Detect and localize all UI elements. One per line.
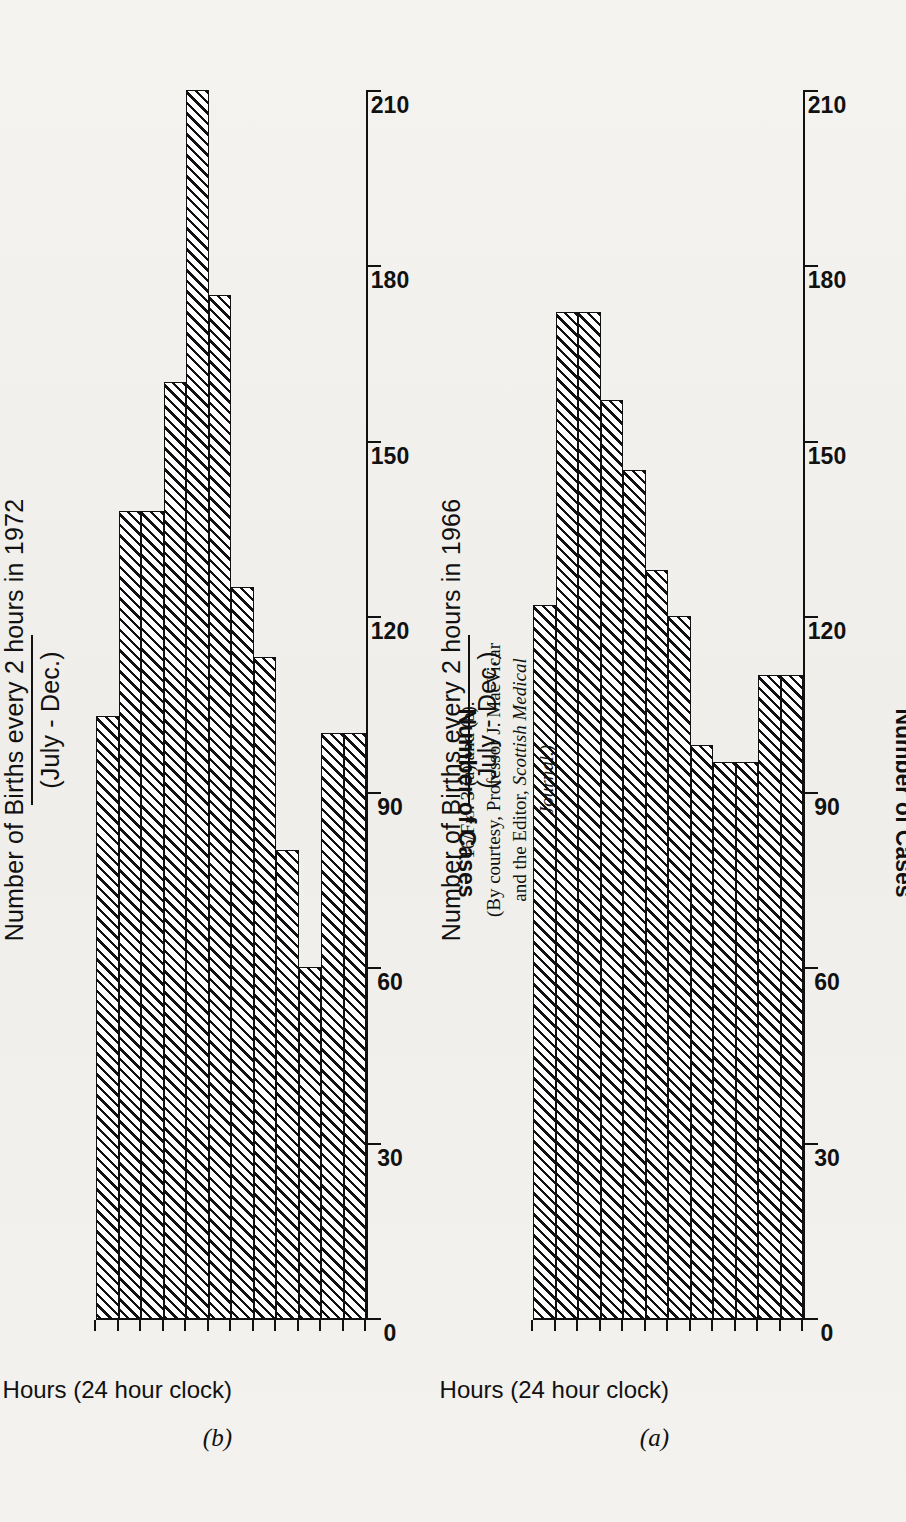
- hour-tick: [711, 1320, 713, 1331]
- value-tick-label: 210: [371, 92, 409, 119]
- figure-b-subtitle: (July - Dec.): [31, 635, 65, 804]
- bar-8-10: [254, 657, 277, 1318]
- caption-journal-name-2: Journal.): [536, 745, 557, 815]
- bar-16-18: [164, 382, 187, 1318]
- bar-22-24: [96, 716, 119, 1318]
- figure-b-title: Number of Births every 2 hours in 1972: [0, 0, 29, 1440]
- bar-14-16: [186, 90, 209, 1318]
- bar-4-6: [299, 967, 322, 1318]
- bar-12-14: [209, 295, 232, 1318]
- value-tick-label: 120: [371, 618, 409, 645]
- hour-tick: [94, 1320, 96, 1331]
- bar-10-12: [668, 616, 691, 1318]
- hour-tick: [689, 1320, 691, 1331]
- figure-a-panel-label: (a): [640, 1424, 669, 1452]
- hour-tick: [531, 1320, 533, 1331]
- value-tick-label: 180: [371, 267, 409, 294]
- figure-a-value-axis-line: [533, 1318, 805, 1320]
- value-tick-label: 150: [808, 443, 846, 470]
- figure-b-category-axis-line: [366, 90, 368, 1320]
- figure-b-title-block: Number of Births every 2 hours in 1972 (…: [0, 0, 65, 1440]
- figure-b-container: Number of Births every 2 hours in 1972 (…: [0, 0, 470, 1522]
- value-tick-label: 150: [371, 443, 409, 470]
- hour-tick: [207, 1320, 209, 1331]
- hour-tick: [139, 1320, 141, 1331]
- hour-tick: [599, 1320, 601, 1331]
- figure-caption: 16/Fig. 3 (a) and (b). (By courtesy, Pro…: [455, 615, 560, 945]
- value-tick-label: 30: [814, 1145, 840, 1172]
- caption-figure-number: 16/: [457, 834, 478, 858]
- bar-0-2: [344, 733, 367, 1318]
- figure-a-plot-area: 0306090120150180210 02468101214161820222…: [533, 90, 805, 1320]
- caption-fig-smallcaps: Fig.: [457, 805, 478, 834]
- hour-tick: [274, 1320, 276, 1331]
- hour-tick: [801, 1320, 803, 1331]
- bar-2-4: [321, 733, 344, 1318]
- figure-b-bars: [96, 90, 366, 1318]
- figure-a-value-axis-title: Number of Cases: [890, 709, 906, 898]
- value-tick-label: 90: [377, 794, 403, 821]
- hour-tick: [364, 1320, 366, 1331]
- hour-tick: [184, 1320, 186, 1331]
- hour-tick: [319, 1320, 321, 1331]
- value-tick-label: 0: [821, 1320, 834, 1347]
- figure-b: Number of Births every 2 hours in 1972 (…: [0, 0, 430, 1440]
- value-tick-label: 180: [808, 267, 846, 294]
- value-tick-label: 0: [384, 1320, 397, 1347]
- hour-tick: [162, 1320, 164, 1331]
- bar-14-16: [623, 470, 646, 1318]
- caption-line-4: Journal.): [534, 615, 560, 945]
- caption-line-3: and the Editor, Scottish Medical: [507, 615, 533, 945]
- value-tick: [368, 1318, 381, 1320]
- hour-tick: [666, 1320, 668, 1331]
- caption-line-1: 16/Fig. 3 (a) and (b).: [455, 615, 481, 945]
- value-tick-label: 60: [814, 969, 840, 996]
- caption-journal-name: Scottish Medical: [509, 658, 530, 785]
- hour-tick: [621, 1320, 623, 1331]
- bar-2-4: [758, 675, 781, 1318]
- hour-tick: [779, 1320, 781, 1331]
- caption-line-2: (By courtesy, Professor J. MacVicar: [481, 615, 507, 945]
- bar-16-18: [601, 400, 624, 1318]
- hour-tick: [644, 1320, 646, 1331]
- bar-12-14: [646, 570, 669, 1318]
- hour-tick: [117, 1320, 119, 1331]
- bar-10-12: [231, 587, 254, 1318]
- hour-tick: [252, 1320, 254, 1331]
- value-tick-label: 90: [814, 794, 840, 821]
- figure-b-plot-area: 0306090120150180210 02468101214161820222…: [96, 90, 368, 1320]
- hour-tick: [576, 1320, 578, 1331]
- bar-18-20: [578, 312, 601, 1318]
- hour-tick: [734, 1320, 736, 1331]
- figure-b-panel-label: (b): [203, 1424, 232, 1452]
- hour-tick: [229, 1320, 231, 1331]
- bar-18-20: [141, 511, 164, 1318]
- value-tick: [805, 1318, 818, 1320]
- hour-tick: [756, 1320, 758, 1331]
- bar-6-8: [713, 762, 736, 1318]
- bar-6-8: [276, 850, 299, 1318]
- figure-b-value-axis-line: [96, 1318, 368, 1320]
- value-tick-label: 210: [808, 92, 846, 119]
- bar-4-6: [736, 762, 759, 1318]
- hour-tick: [554, 1320, 556, 1331]
- bar-0-2: [781, 675, 804, 1318]
- figure-a-category-axis-line: [803, 90, 805, 1320]
- value-tick-label: 60: [377, 969, 403, 996]
- figure-a-bars: [533, 90, 803, 1318]
- value-tick-label: 120: [808, 618, 846, 645]
- bar-8-10: [691, 745, 714, 1318]
- figure-b-category-axis-title: Hours (24 hour clock): [3, 1376, 232, 1404]
- hour-tick: [342, 1320, 344, 1331]
- caption-fig-rest: 3 (a) and (b).: [457, 701, 478, 805]
- figure-a-category-axis-title: Hours (24 hour clock): [440, 1376, 669, 1404]
- hour-tick: [297, 1320, 299, 1331]
- bar-20-22: [119, 511, 142, 1318]
- value-tick-label: 30: [377, 1145, 403, 1172]
